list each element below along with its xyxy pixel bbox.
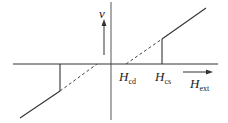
v-label: v [99,7,105,20]
hcd-label: Hcd [119,70,136,86]
hysteresis-diagram: v Hcd Hcs Hext [0,0,228,123]
diagram-graphics [0,0,228,123]
hext-arrow-head [206,70,213,75]
upper-dashed-line [126,39,162,64]
hext-label: Hext [190,77,209,93]
upper-solid-line [162,8,206,39]
hcs-label: Hcs [155,70,171,86]
lower-solid-line [20,91,60,118]
lower-dashed-line [60,64,97,91]
